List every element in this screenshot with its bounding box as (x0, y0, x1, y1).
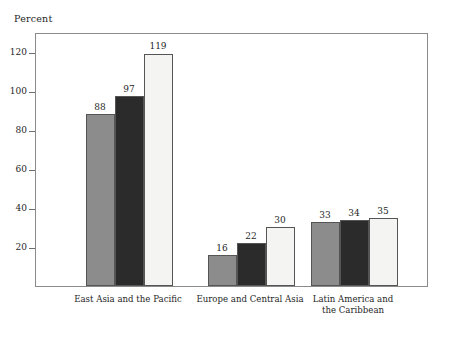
bar-chart: Percent 20406080100120 199519972001 8897… (0, 0, 450, 343)
y-axis-tick-label: 60 (0, 165, 27, 175)
y-axis-tick-label-text: 100 (1, 87, 27, 96)
bar-value-label: 30 (260, 216, 301, 225)
y-axis-tick-label: 40 (0, 204, 27, 214)
y-axis-tick-label-text: 40 (1, 204, 27, 213)
bar-value-label: 35 (363, 207, 404, 216)
y-axis-tick-label: 100 (0, 87, 27, 97)
y-axis-tick-label: 120 (0, 48, 27, 58)
bar (237, 243, 266, 286)
plot-area: 8897119162230333435 (35, 33, 428, 287)
bar (115, 96, 144, 286)
y-axis-tick-label-text: 80 (1, 126, 27, 135)
y-axis-tick-label: 80 (0, 126, 27, 136)
x-axis-group-label: East Asia and the Pacific (58, 294, 198, 305)
bar (144, 54, 173, 287)
y-axis-title: Percent (14, 13, 52, 24)
bar (266, 227, 295, 286)
y-axis-tick-label-text: 20 (1, 243, 27, 252)
bar-value-label: 119 (138, 42, 179, 51)
x-axis-group-label: Latin America and the Caribbean (283, 294, 423, 316)
y-axis-tick-label: 20 (0, 243, 27, 253)
y-axis-tick-label-text: 60 (1, 165, 27, 174)
bar (311, 222, 340, 286)
bar (340, 220, 369, 286)
y-axis-tick-label-text: 120 (1, 48, 27, 57)
bar (86, 114, 115, 286)
bar (208, 255, 237, 286)
bar (369, 218, 398, 286)
